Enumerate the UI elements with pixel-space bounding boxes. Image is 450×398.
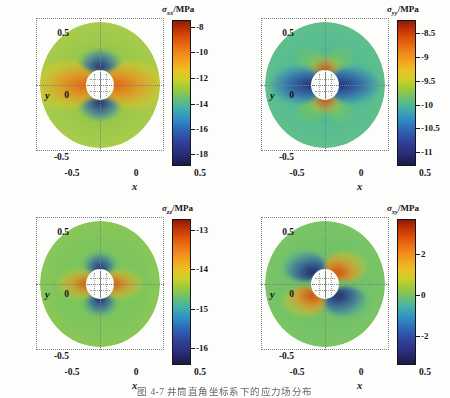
ytick-top: 0.5 <box>35 227 69 237</box>
ytick-top: 0.5 <box>35 28 69 38</box>
axes-sigma-xy: 0.5 0 -0.5 -0.5 0 0.5 y x <box>261 217 389 350</box>
colorbar-sigma-xy: σxy/MPa 2 0 -2 <box>393 217 449 367</box>
xtick-left: -0.5 <box>283 367 311 377</box>
colorbar-tick: -8.5 <box>416 28 435 38</box>
xtick-right: 0.5 <box>411 168 439 178</box>
colorbar-tick: -16 <box>191 343 208 353</box>
colorbar-tick: -14 <box>191 99 208 109</box>
colorbar-tick: -14 <box>191 264 208 274</box>
y-axis-label: y <box>270 289 275 300</box>
y-axis-label: y <box>45 289 50 300</box>
xtick-left: -0.5 <box>283 168 311 178</box>
colorbar-tick: -12 <box>191 73 208 83</box>
xtick-left: -0.5 <box>58 168 86 178</box>
colorbar-tick: -10 <box>191 47 208 57</box>
colorbar-tick: -11 <box>416 147 433 157</box>
xtick-mid: 0 <box>347 168 375 178</box>
colorbar-tick: -9 <box>416 52 429 62</box>
xtick-right: 0.5 <box>186 168 214 178</box>
colorbar-title: σzz/MPa <box>162 203 193 215</box>
colorbar-title: σxx/MPa <box>162 4 194 16</box>
ytick-bottom: -0.5 <box>260 351 294 361</box>
ytick-mid: 0 <box>260 90 294 100</box>
ytick-top: 0.5 <box>260 28 294 38</box>
gridline-horizontal <box>36 284 164 285</box>
colorbar-gradient <box>172 20 191 166</box>
colorbar-sigma-yy: σyy/MPa -8.5 -9 -9.5 -10 -10.5 -11 <box>393 18 449 168</box>
x-axis-label: x <box>132 181 137 192</box>
colorbar-tick: -2 <box>416 331 429 341</box>
colorbar-title: σxy/MPa <box>387 203 419 215</box>
colorbar-gradient <box>397 219 416 365</box>
gridline-horizontal <box>261 284 389 285</box>
panel-sigma-zz: 0.5 0 -0.5 -0.5 0 0.5 y x σzz/MPa -13 -1… <box>0 201 225 381</box>
xtick-right: 0.5 <box>186 367 214 377</box>
panel-sigma-xy: 0.5 0 -0.5 -0.5 0 0.5 y x σxy/MPa 2 0 -2 <box>225 201 450 381</box>
ytick-mid: 0 <box>260 289 294 299</box>
colorbar-tick: -10.5 <box>416 123 440 133</box>
y-axis-label: y <box>270 90 275 101</box>
xtick-mid: 0 <box>122 168 150 178</box>
ytick-bottom: -0.5 <box>260 152 294 162</box>
colorbar-sigma-xx: σxx/MPa -8 -10 -12 -14 -16 -18 <box>168 18 224 168</box>
y-axis-label: y <box>45 90 50 101</box>
ytick-top: 0.5 <box>260 227 294 237</box>
xtick-right: 0.5 <box>411 367 439 377</box>
colorbar-tick: 0 <box>416 290 426 300</box>
colorbar-tick: 2 <box>416 249 426 259</box>
axes-sigma-xx: 0.5 0 -0.5 -0.5 0 0.5 y x <box>36 18 164 151</box>
panel-sigma-xx: 0.5 0 -0.5 -0.5 0 0.5 y x σxx/MPa -8 -10… <box>0 2 225 182</box>
colorbar-tick: -10 <box>416 100 433 110</box>
colorbar-tick: -16 <box>191 124 208 134</box>
ytick-bottom: -0.5 <box>35 351 69 361</box>
figure-caption: 图 4-7 井筒直角坐标系下的应力场分布 <box>0 384 450 398</box>
colorbar-tick: -18 <box>191 149 208 159</box>
colorbar-gradient <box>397 20 416 166</box>
xtick-left: -0.5 <box>58 367 86 377</box>
gridline-horizontal <box>36 85 164 86</box>
colorbar-tick: -9.5 <box>416 76 435 86</box>
colorbar-sigma-zz: σzz/MPa -13 -14 -15 -16 <box>168 217 224 367</box>
xtick-mid: 0 <box>347 367 375 377</box>
colorbar-tick: -13 <box>191 225 208 235</box>
colorbar-title: σyy/MPa <box>387 4 419 16</box>
ytick-bottom: -0.5 <box>35 152 69 162</box>
panel-sigma-yy: 0.5 0 -0.5 -0.5 0 0.5 y x σyy/MPa -8.5 -… <box>225 2 450 182</box>
x-axis-label: x <box>357 181 362 192</box>
gridline-horizontal <box>261 85 389 86</box>
colorbar-gradient <box>172 219 191 365</box>
xtick-mid: 0 <box>122 367 150 377</box>
figure-root: 0.5 0 -0.5 -0.5 0 0.5 y x σxx/MPa -8 -10… <box>0 0 450 398</box>
ytick-mid: 0 <box>35 289 69 299</box>
axes-sigma-zz: 0.5 0 -0.5 -0.5 0 0.5 y x <box>36 217 164 350</box>
axes-sigma-yy: 0.5 0 -0.5 -0.5 0 0.5 y x <box>261 18 389 151</box>
ytick-mid: 0 <box>35 90 69 100</box>
colorbar-tick: -8 <box>191 22 204 32</box>
colorbar-tick: -15 <box>191 304 208 314</box>
